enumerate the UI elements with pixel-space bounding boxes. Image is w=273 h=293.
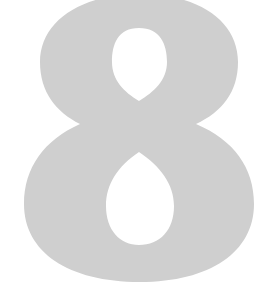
digit-eight-shape — [24, 0, 254, 282]
digit-eight-glyph — [0, 0, 273, 293]
